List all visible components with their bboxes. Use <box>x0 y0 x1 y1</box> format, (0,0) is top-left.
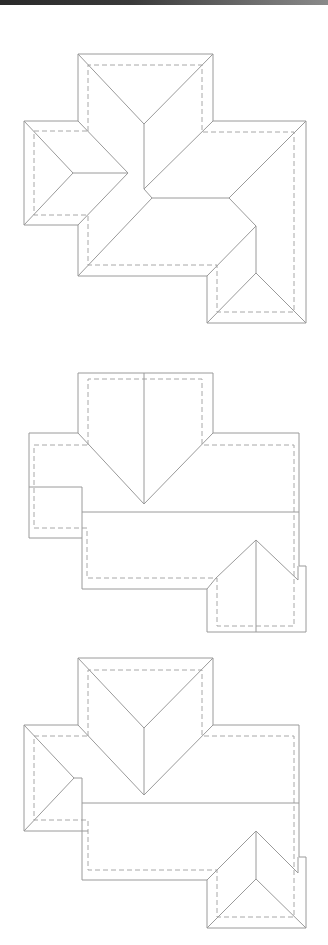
roof-outline <box>29 373 306 632</box>
wall-line <box>34 65 294 312</box>
roof-plans-canvas <box>0 0 328 945</box>
roof-plan-3 <box>24 658 306 928</box>
roof-outline <box>24 658 306 928</box>
roof-plan-1 <box>24 54 306 323</box>
roof-plan-2 <box>29 373 306 632</box>
roof-outline <box>24 54 306 323</box>
